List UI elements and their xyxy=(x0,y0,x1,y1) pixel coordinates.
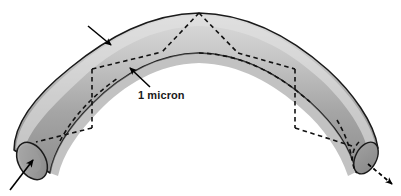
arched-tube-figure: 1 micron xyxy=(0,0,401,196)
arched-tube-body xyxy=(14,13,378,176)
figure-canvas xyxy=(0,0,401,196)
diameter-arrow-upper xyxy=(88,26,111,45)
scale-label: 1 micron xyxy=(138,90,185,101)
